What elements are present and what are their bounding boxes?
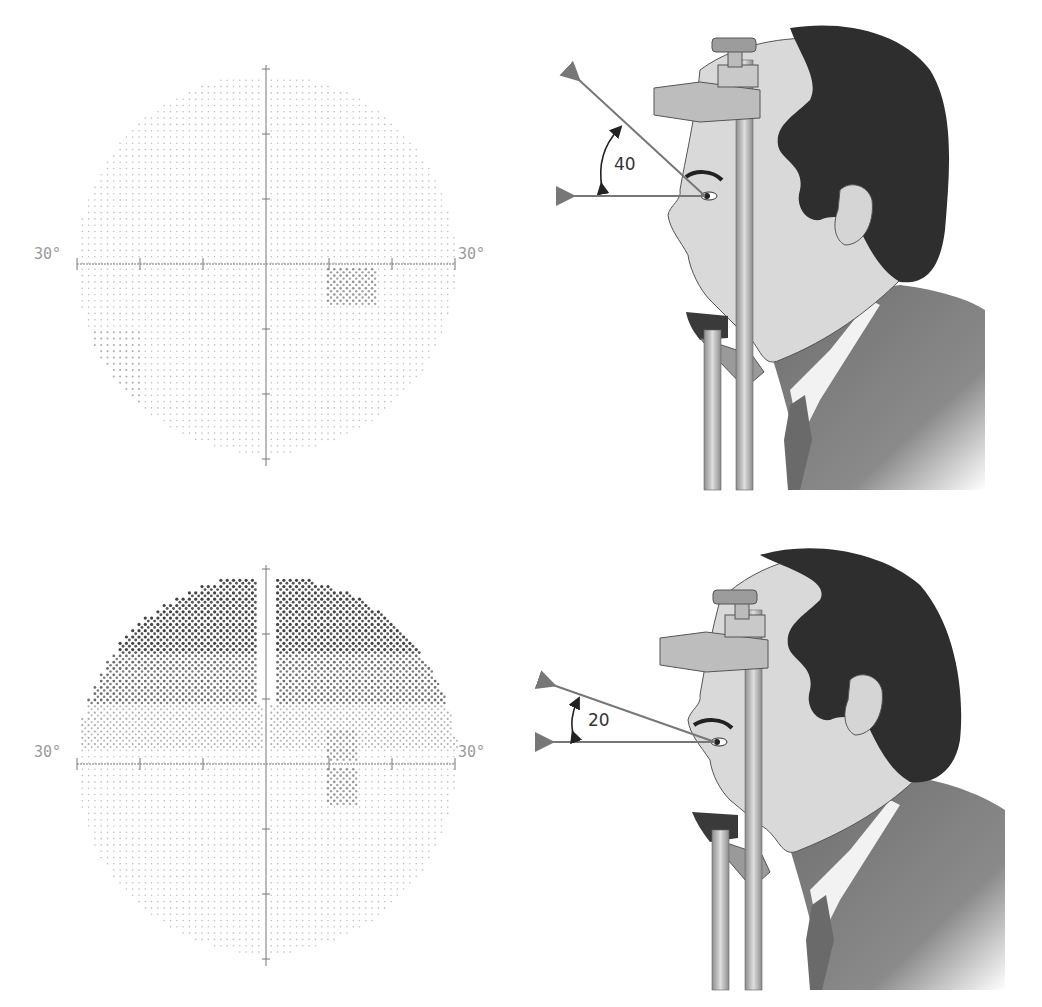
forehead-rest (660, 632, 768, 672)
gaze-angle-label-20: 20 (588, 710, 610, 730)
bottom-patient-illustration (520, 500, 1042, 1007)
angle-arc (572, 702, 577, 736)
right-30-degree-label: 30° (458, 743, 485, 761)
bottom-visual-field-plot (60, 555, 480, 975)
top-patient-illustration (540, 0, 1042, 500)
right-30-degree-label: 30° (458, 245, 485, 263)
adjustment-knob (712, 38, 756, 52)
visual-field-grayscale (60, 555, 480, 975)
top-panel: 30° 30° (0, 0, 1042, 500)
top-visual-field-plot (60, 55, 480, 475)
left-30-degree-label: 30° (34, 245, 61, 263)
forehead-rest (654, 82, 760, 122)
visual-field-grayscale (60, 55, 480, 475)
left-30-degree-label: 30° (34, 743, 61, 761)
adjustment-knob (713, 590, 757, 604)
patient-at-perimeter-chinrest (540, 0, 1042, 500)
bottom-panel: 30° 30° (0, 500, 1042, 1007)
patient-at-perimeter-chinrest (520, 500, 1042, 1007)
chinrest-rod-front (704, 330, 721, 490)
chinrest-rod-rear (736, 60, 753, 490)
chinrest-rod-front (712, 830, 729, 990)
gaze-angle-label-40: 40 (614, 154, 636, 174)
